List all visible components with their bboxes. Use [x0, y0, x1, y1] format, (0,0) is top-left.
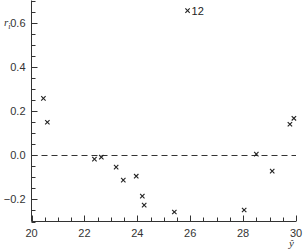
- data-point-marker: [142, 203, 146, 207]
- data-point-marker: [99, 155, 103, 159]
- y-tick-label: 0.4: [10, 61, 25, 73]
- x-axis-title: ŷ: [288, 237, 294, 249]
- x-tick-label: 26: [184, 227, 196, 239]
- y-tick-label: 0.6: [10, 17, 25, 29]
- data-point-marker: [292, 116, 296, 120]
- data-point-marker: [270, 169, 274, 173]
- data-point-marker: [121, 178, 125, 182]
- data-point-marker: [172, 210, 176, 214]
- x-tick-label: 22: [78, 227, 90, 239]
- y-tick-label: −0.2: [4, 193, 26, 205]
- axes: [32, 1, 297, 222]
- data-point-marker: [242, 208, 246, 212]
- y-tick-label: 0.0: [10, 149, 25, 161]
- residual-scatter-plot: −0.20.00.20.40.6202224262830 12 ri ŷ: [0, 0, 303, 251]
- data-point-marker: [134, 174, 138, 178]
- data-point-marker: [185, 8, 189, 12]
- x-tick-label: 20: [25, 227, 37, 239]
- axis-ticks: [32, 2, 297, 223]
- axis-tick-labels: −0.20.00.20.40.6202224262830: [4, 17, 302, 239]
- data-point-marker: [288, 122, 292, 126]
- data-point-marker: [41, 96, 45, 100]
- x-tick-label: 28: [237, 227, 249, 239]
- data-point-marker: [45, 120, 49, 124]
- x-tick-label: 24: [131, 227, 143, 239]
- data-point-marker: [140, 194, 144, 198]
- data-point-marker: [114, 165, 118, 169]
- point-annotation: 12: [192, 5, 204, 17]
- data-point-marker: [92, 157, 96, 161]
- y-tick-label: 0.2: [10, 105, 25, 117]
- data-points: 12: [41, 5, 296, 215]
